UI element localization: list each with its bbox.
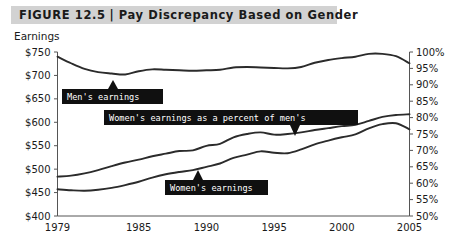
x-axis-tick-label: 1979 bbox=[45, 222, 70, 233]
figure-container: FIGURE 12.5 | Pay Discrepancy Based on G… bbox=[0, 0, 455, 251]
y-axis-left-tick-label: $450 bbox=[25, 187, 50, 198]
y-axis-left-ticks: $400$450$500$550$600$650$700$750 bbox=[25, 47, 57, 222]
y-axis-right-tick-label: 75% bbox=[416, 129, 438, 140]
chart-annotation: Men's earnings bbox=[62, 80, 163, 104]
x-axis-tick-label: 2000 bbox=[329, 222, 354, 233]
y-axis-right-ticks: 50%55%60%65%70%75%80%85%90%95%100% bbox=[410, 47, 445, 222]
y-axis-left-tick-label: $400 bbox=[25, 211, 50, 222]
y-axis-right-tick-label: 95% bbox=[416, 63, 438, 74]
y-axis-right-tick-label: 80% bbox=[416, 112, 438, 123]
annotation-pointer-icon bbox=[193, 170, 203, 180]
x-axis-tick-label: 1995 bbox=[261, 222, 286, 233]
y-axis-right-tick-label: 85% bbox=[416, 96, 438, 107]
y-axis-left-tick-label: $700 bbox=[25, 70, 50, 81]
y-axis-right-tick-label: 50% bbox=[416, 211, 438, 222]
y-axis-left-tick-label: $750 bbox=[25, 47, 50, 58]
y-axis-right-tick-label: 100% bbox=[416, 47, 445, 58]
y-axis-right-tick-label: 65% bbox=[416, 161, 438, 172]
annotation-label: Men's earnings bbox=[67, 92, 139, 102]
x-axis-ticks: 197919851990199520002005 bbox=[45, 222, 422, 233]
y-axis-left-tick-label: $500 bbox=[25, 164, 50, 175]
y-axis-left-tick-label: $650 bbox=[25, 93, 50, 104]
x-axis-tick-label: 1990 bbox=[194, 222, 219, 233]
y-axis-right-tick-label: 90% bbox=[416, 79, 438, 90]
x-axis-tick-label: 1985 bbox=[126, 222, 151, 233]
annotation-group: Men's earningsWomen's earnings as a perc… bbox=[62, 80, 358, 195]
x-axis-tick-label: 2005 bbox=[397, 222, 422, 233]
annotation-pointer-icon bbox=[108, 80, 118, 89]
annotation-label: Women's earnings as a percent of men's bbox=[109, 113, 306, 123]
y-axis-right-tick-label: 70% bbox=[416, 145, 438, 156]
series-line bbox=[58, 54, 410, 75]
line-chart: $400$450$500$550$600$650$700$750 50%55%6… bbox=[0, 0, 455, 251]
y-axis-left-tick-label: $600 bbox=[25, 117, 50, 128]
y-axis-right-tick-label: 55% bbox=[416, 194, 438, 205]
y-axis-right-tick-label: 60% bbox=[416, 178, 438, 189]
chart-annotation: Women's earnings as a percent of men's bbox=[104, 110, 358, 136]
y-axis-left-tick-label: $550 bbox=[25, 140, 50, 151]
annotation-label: Women's earnings bbox=[170, 183, 253, 193]
chart-annotation: Women's earnings bbox=[165, 170, 268, 195]
